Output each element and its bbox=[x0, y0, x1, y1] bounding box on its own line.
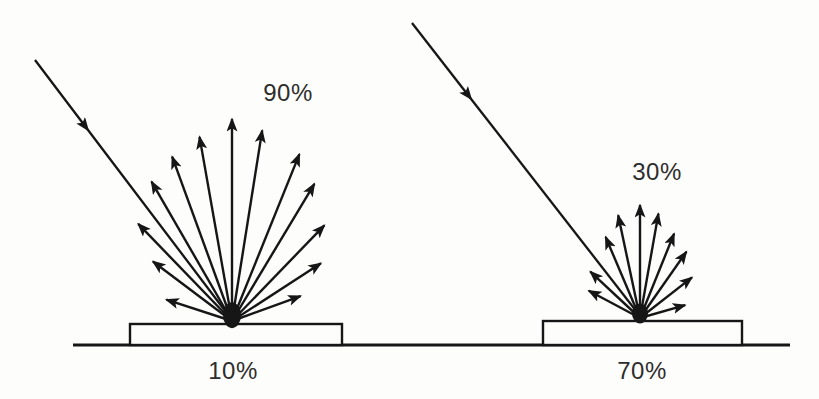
absorbed-percentage-left: 10% bbox=[208, 357, 258, 385]
scattered-ray bbox=[232, 263, 321, 321]
surface-slab-high-reflection bbox=[130, 324, 342, 345]
incident-ray-high-reflection bbox=[35, 60, 232, 320]
scattered-ray bbox=[640, 214, 658, 318]
absorbed-percentage-right: 70% bbox=[617, 357, 667, 385]
albedo-reflection-diagram: 90% 10% 30% 70% bbox=[0, 0, 819, 399]
scattered-ray bbox=[232, 154, 299, 321]
reflected-percentage-right: 30% bbox=[632, 158, 682, 186]
surface-slab-low-reflection bbox=[543, 321, 742, 345]
reflected-percentage-left: 90% bbox=[263, 79, 313, 107]
scattered-ray bbox=[172, 157, 232, 321]
incident-ray-low-reflection bbox=[412, 23, 640, 316]
scatter-origin-blob-high-reflection bbox=[223, 302, 241, 328]
scattered-ray bbox=[232, 130, 262, 321]
diagram-scene bbox=[0, 0, 819, 399]
scattered-ray bbox=[232, 184, 314, 321]
scatter-origin-blob-low-reflection bbox=[632, 304, 648, 324]
